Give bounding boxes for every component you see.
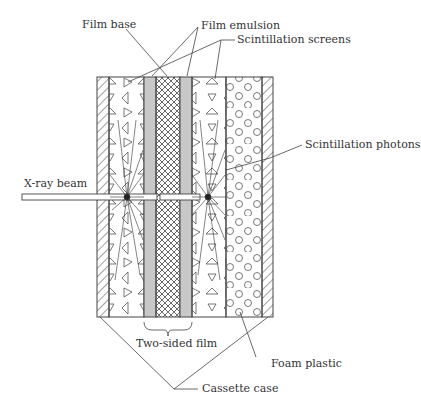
label-xray-beam: X-ray beam — [24, 178, 87, 190]
label-scintillation-screens: Scintillation screens — [237, 34, 351, 46]
label-foam-plastic: Foam plastic — [271, 358, 342, 370]
label-scintillation-photons: Scintillation photons — [305, 139, 421, 151]
two-sided-film-brace — [144, 322, 192, 336]
cassette-case-right — [262, 77, 273, 317]
label-cassette-case: Cassette case — [202, 383, 279, 395]
label-two-sided-film: Two-sided film — [136, 338, 217, 350]
label-film-base: Film base — [82, 19, 136, 31]
foam-plastic — [226, 77, 262, 317]
label-film-emulsion: Film emulsion — [201, 20, 280, 32]
